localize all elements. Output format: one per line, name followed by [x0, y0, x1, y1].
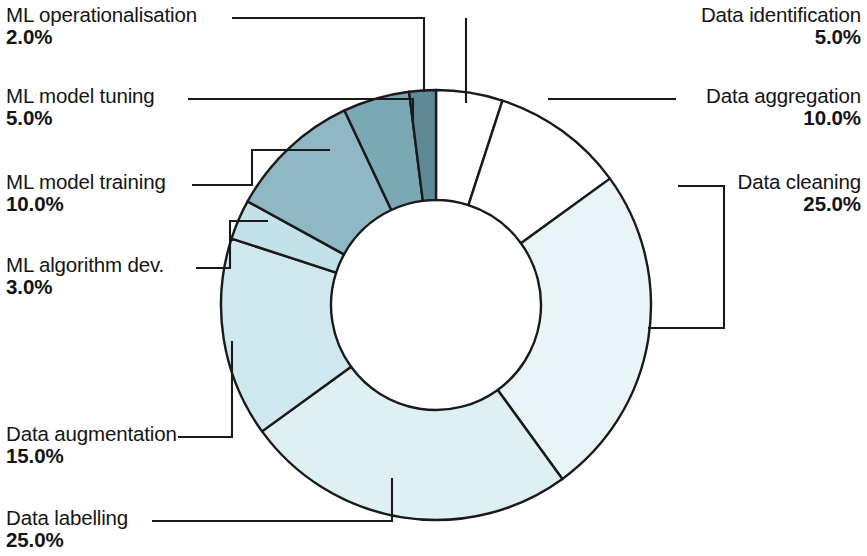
- label-ml-model-tuning: ML model tuning 5.0%: [6, 85, 155, 129]
- label-ml-operationalisation-value: 2.0%: [6, 26, 197, 47]
- label-data-cleaning-value: 25.0%: [738, 193, 861, 214]
- label-data-cleaning: Data cleaning 25.0%: [738, 171, 861, 215]
- label-ml-model-training: ML model training 10.0%: [6, 171, 166, 215]
- label-data-augmentation-value: 15.0%: [6, 445, 177, 466]
- leader-line-data-augmentation: [178, 341, 232, 437]
- label-data-aggregation: Data aggregation 10.0%: [706, 85, 861, 129]
- leader-line-ml-operationalisation: [232, 18, 424, 92]
- label-data-augmentation: Data augmentation 15.0%: [6, 423, 177, 467]
- label-data-identification-value: 5.0%: [701, 26, 861, 47]
- donut-slice-group: [221, 90, 651, 520]
- leader-line-data-cleaning: [648, 186, 724, 328]
- label-data-cleaning-name: Data cleaning: [738, 171, 861, 192]
- label-ml-operationalisation: ML operationalisation 2.0%: [6, 4, 197, 48]
- donut-chart-figure: ML operationalisation 2.0% ML model tuni…: [0, 0, 867, 556]
- label-data-identification-name: Data identification: [701, 4, 861, 25]
- label-ml-algorithm-dev-name: ML algorithm dev.: [6, 254, 164, 275]
- label-data-labelling-name: Data labelling: [6, 507, 128, 528]
- label-data-labelling: Data labelling 25.0%: [6, 507, 128, 551]
- label-data-augmentation-name: Data augmentation: [6, 423, 177, 444]
- label-data-identification: Data identification 5.0%: [701, 4, 861, 48]
- label-data-aggregation-name: Data aggregation: [706, 85, 861, 106]
- label-ml-model-tuning-value: 5.0%: [6, 107, 155, 128]
- label-ml-algorithm-dev: ML algorithm dev. 3.0%: [6, 254, 164, 298]
- label-ml-model-training-name: ML model training: [6, 171, 166, 192]
- label-ml-operationalisation-name: ML operationalisation: [6, 4, 197, 25]
- label-ml-algorithm-dev-value: 3.0%: [6, 276, 164, 297]
- label-data-labelling-value: 25.0%: [6, 529, 128, 550]
- label-ml-model-training-value: 10.0%: [6, 193, 166, 214]
- label-data-aggregation-value: 10.0%: [706, 107, 861, 128]
- label-ml-model-tuning-name: ML model tuning: [6, 85, 155, 106]
